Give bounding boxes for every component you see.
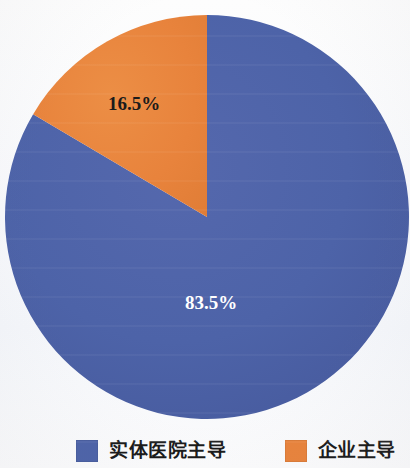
legend-item-企业主导[interactable]: 企业主导	[285, 440, 396, 462]
pie-label-83-5-percent: 83.5%	[185, 292, 237, 313]
legend-swatch-blue	[76, 440, 98, 462]
pie-chart-figure: 83.5% 16.5% 实体医院主导 企业主导	[0, 0, 410, 468]
chart-legend: 实体医院主导 企业主导	[0, 440, 410, 468]
legend-label-实体医院主导: 实体医院主导	[109, 440, 227, 462]
pie-chart-plot-area: 83.5% 16.5%	[0, 0, 410, 436]
legend-swatch-orange	[285, 440, 307, 462]
legend-item-实体医院主导[interactable]: 实体医院主导	[76, 440, 227, 462]
legend-label-企业主导: 企业主导	[318, 440, 396, 462]
pie-chart-svg: 83.5% 16.5%	[0, 0, 410, 436]
pie-label-16-5-percent: 16.5%	[108, 93, 160, 114]
